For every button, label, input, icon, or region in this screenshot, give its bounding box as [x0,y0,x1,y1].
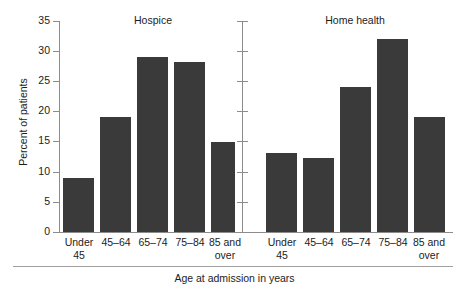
x-label-hospice-85-and-over: 85 and over [198,236,252,261]
y-axis-tick-35 [53,21,59,22]
center-axis-tick-20 [237,111,248,112]
bar-home-health-85-and-over [414,117,445,232]
panel-title-hospice: Hospice [98,14,208,26]
x-axis-baseline [59,232,453,233]
bar-chart-figure: 35 30 25 20 15 10 5 0 Percent of patient… [0,0,469,287]
y-axis-tick-15 [53,141,59,142]
center-axis-tick-25 [237,81,248,82]
center-axis-tick-10 [237,172,248,173]
x-axis-title: Age at admission in years [0,272,469,284]
y-axis-tick-10 [53,172,59,173]
bar-home-health-75-84 [377,39,408,232]
center-axis-tick-5 [237,202,248,203]
y-axis-title: Percent of patients [17,52,29,192]
bar-home-health-45-64 [303,158,334,232]
bar-home-health-65-74 [340,87,371,232]
bar-hospice-85-and-over [211,142,235,232]
center-axis-tick-15 [237,141,248,142]
y-axis-label-5: 5 [24,196,50,207]
bar-home-health-under-45 [266,153,297,232]
footer-divider-rule [13,266,453,267]
bar-hospice-under-45 [63,178,94,232]
x-label-home-health-85-and-over: 85 and over [402,236,456,261]
panel-title-home-health: Home health [300,14,410,26]
y-axis-tick-25 [53,81,59,82]
center-axis-tick-30 [237,51,248,52]
y-axis-tick-5 [53,202,59,203]
y-axis-line [59,21,60,232]
bar-hospice-45-64 [100,117,131,232]
center-axis-tick-35 [237,21,248,22]
bar-hospice-75-84 [174,62,205,232]
bar-hospice-65-74 [137,57,168,232]
y-axis-label-35: 35 [24,15,50,26]
y-axis-label-0: 0 [24,226,50,237]
center-divider-axis-line [242,21,243,232]
y-axis-tick-30 [53,51,59,52]
y-axis-tick-20 [53,111,59,112]
